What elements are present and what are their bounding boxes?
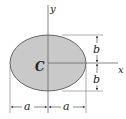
b-top-label: b — [93, 43, 100, 56]
b-bottom-label: b — [93, 73, 100, 86]
y-axis-label: y — [49, 3, 56, 14]
a-right-label: a — [63, 100, 70, 113]
ellipse-diagram: y x C b b a a — [0, 0, 126, 119]
a-left-label: a — [24, 100, 31, 113]
x-axis-label: x — [118, 64, 124, 75]
centroid-label: C — [35, 60, 45, 74]
